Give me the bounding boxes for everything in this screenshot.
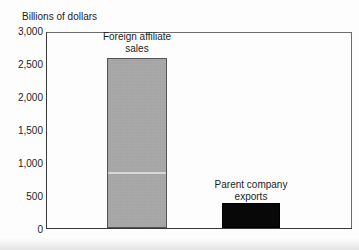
y-tick-label: 1,500 <box>3 126 43 136</box>
y-tick-label: 3,000 <box>3 27 43 37</box>
y-tick-label: 0 <box>3 225 43 235</box>
bar-chart-figure: Billions of dollars 3,000 2,500 2,000 1,… <box>0 0 359 250</box>
bar-label-line-1: Parent company <box>215 179 288 190</box>
y-axis-tick-labels: 3,000 2,500 2,000 1,500 1,000 500 0 <box>0 0 43 250</box>
bar-label-line-2: sales <box>125 43 148 54</box>
scan-streak-artifact <box>108 172 166 174</box>
y-tick-label: 1,000 <box>3 159 43 169</box>
scan-bottom-edge <box>0 238 359 250</box>
bar-parent-company-exports <box>222 203 280 228</box>
bar-label-parent-company-exports: Parent companyexports <box>201 179 301 203</box>
bar-foreign-affiliate-sales <box>107 58 167 228</box>
bar-label-line-2: exports <box>235 191 268 202</box>
y-tick-label: 500 <box>3 192 43 202</box>
plot-area: Foreign affiliatesales Parent companyexp… <box>46 32 352 229</box>
bar-label-foreign-affiliate-sales: Foreign affiliatesales <box>87 31 187 55</box>
bar-label-line-1: Foreign affiliate <box>103 31 171 42</box>
y-tick-label: 2,500 <box>3 60 43 70</box>
y-tick-label: 2,000 <box>3 93 43 103</box>
